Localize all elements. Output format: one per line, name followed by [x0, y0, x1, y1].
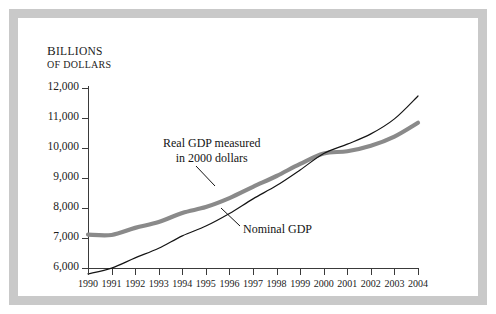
x-axis-tick — [159, 269, 160, 275]
x-axis-tick — [253, 269, 254, 275]
x-axis-tick — [347, 269, 348, 275]
x-axis-tick — [135, 269, 136, 275]
x-axis-tick-label: 2004 — [401, 278, 435, 289]
x-axis-tick — [300, 269, 301, 275]
y-axis-tick-label: 10,000 — [47, 140, 79, 152]
y-axis-tick — [82, 88, 89, 89]
figure-root: BILLIONS OF DOLLARS Real GDP measured in… — [0, 0, 496, 314]
leader-line-real-gdp — [196, 166, 215, 186]
annotation-real-gdp-line2: in 2000 dollars — [163, 151, 261, 166]
y-axis-tick — [82, 118, 89, 119]
y-axis-tick-label: 6,000 — [53, 260, 79, 272]
x-axis-tick — [324, 269, 325, 275]
y-axis-tick-label: 7,000 — [53, 230, 79, 242]
x-axis-tick — [229, 269, 230, 275]
y-axis-tick-label: 8,000 — [53, 200, 79, 212]
y-axis-tick — [82, 148, 89, 149]
y-axis-tick — [82, 208, 89, 209]
y-axis-tick — [82, 238, 89, 239]
x-axis-tick — [112, 269, 113, 275]
y-axis-tick — [82, 178, 89, 179]
annotation-nominal-gdp: Nominal GDP — [243, 222, 312, 237]
x-axis-tick — [371, 269, 372, 275]
y-axis-tick-label: 11,000 — [48, 110, 79, 122]
x-axis-tick — [206, 269, 207, 275]
y-axis-tick-label: 12,000 — [47, 80, 79, 92]
y-axis-tick-label: 9,000 — [53, 170, 79, 182]
x-axis-tick — [182, 269, 183, 275]
x-axis-tick — [418, 269, 419, 275]
x-axis-tick — [88, 269, 89, 275]
x-axis-tick — [394, 269, 395, 275]
x-axis-tick — [277, 269, 278, 275]
annotation-real-gdp: Real GDP measured in 2000 dollars — [163, 136, 261, 166]
annotation-real-gdp-line1: Real GDP measured — [163, 136, 261, 151]
